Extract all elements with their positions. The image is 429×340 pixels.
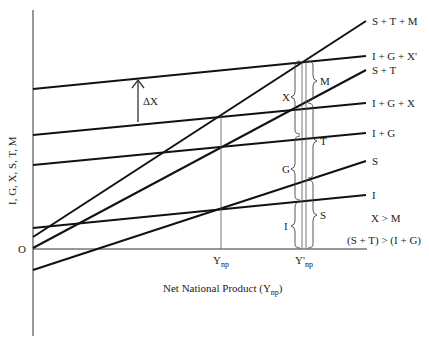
brace-label-m: M (320, 75, 330, 87)
condition-x-gt-m: X > M (371, 212, 401, 224)
line-i-g-x (33, 103, 366, 135)
x-axis-label: Net National Product (Ynp) (163, 282, 283, 297)
brace-t (308, 103, 317, 178)
origin-label: O (18, 243, 26, 255)
brace-label-x: X (282, 91, 290, 103)
y-axis-label: I, G, X, S, T, M (6, 136, 18, 205)
line-s-t (33, 70, 366, 248)
brace-label-g: G (282, 163, 290, 175)
label-i: I (372, 189, 376, 201)
brace-label-i: I (284, 220, 288, 232)
label-i-g: I + G (372, 127, 395, 139)
shift-label: ΔX (143, 95, 158, 107)
line-i-g (33, 133, 366, 165)
brace-m (308, 61, 317, 101)
label-i-g-x: I + G + X (372, 97, 415, 109)
leakages-injections-diagram: S + T + M I + G + X' S + T I + G + X I +… (0, 0, 429, 340)
brace-label-t: T (320, 135, 327, 147)
line-i (33, 195, 366, 228)
line-i-g-x-prime (33, 56, 366, 89)
label-s-t-m: S + T + M (372, 15, 418, 27)
label-i-g-x-prime: I + G + X' (372, 50, 417, 62)
label-s-t: S + T (372, 64, 397, 76)
brace-label-s: S (320, 209, 326, 221)
tick-ynp: Ynp (213, 254, 229, 269)
brace-x (291, 61, 300, 134)
line-s-t-m (33, 21, 366, 237)
brace-g (291, 136, 300, 200)
condition-leakages-gt-injections: (S + T) > (I + G) (347, 234, 421, 247)
brace-s (308, 180, 317, 248)
tick-ynp-prime: Y'np (295, 254, 313, 269)
label-s: S (372, 155, 378, 167)
brace-i (291, 202, 300, 248)
